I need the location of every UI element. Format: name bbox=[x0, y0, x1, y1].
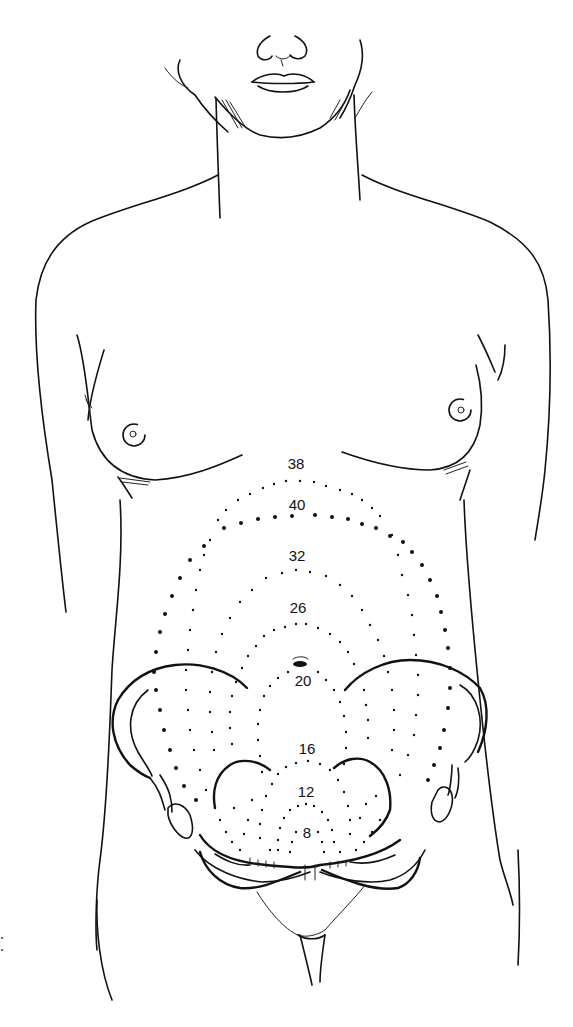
label-20-weeks: 20 bbox=[295, 672, 312, 689]
label-32-weeks: 32 bbox=[289, 547, 306, 564]
label-38-weeks: 38 bbox=[288, 455, 305, 472]
lower-body-outline bbox=[257, 885, 365, 985]
week-labels: 38 40 32 26 20 16 12 8 bbox=[288, 455, 316, 841]
umbilicus-icon bbox=[293, 657, 308, 667]
nipple-icon bbox=[123, 399, 471, 446]
face-drawing bbox=[165, 36, 372, 138]
margin-marks bbox=[1, 937, 3, 951]
torso-outline bbox=[36, 175, 550, 1000]
fundal-height-illustration: 38 40 32 26 20 16 12 8 bbox=[0, 0, 573, 1027]
label-16-weeks: 16 bbox=[299, 740, 316, 757]
pelvis-outline bbox=[113, 660, 487, 889]
contour-32-weeks bbox=[209, 569, 395, 751]
label-26-weeks: 26 bbox=[290, 599, 307, 616]
breast-outline bbox=[77, 335, 505, 500]
label-8-weeks: 8 bbox=[303, 824, 311, 841]
label-12-weeks: 12 bbox=[298, 783, 315, 800]
label-40-weeks: 40 bbox=[289, 496, 306, 513]
pelvic-dot-field bbox=[219, 795, 381, 853]
